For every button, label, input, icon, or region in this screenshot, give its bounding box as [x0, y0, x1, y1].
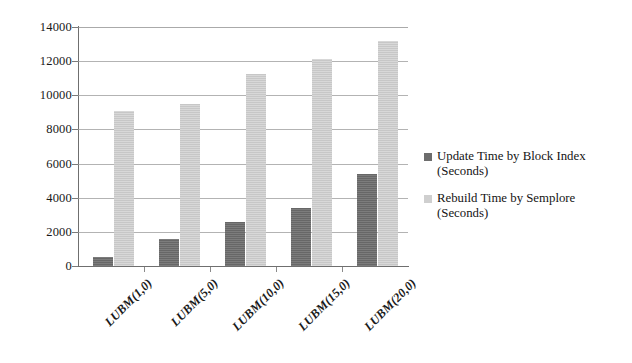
legend-label-rebuild-line1: Rebuild Time by Semplore — [437, 191, 575, 205]
y-axis-tick-mark — [72, 27, 78, 28]
x-axis-tick-label: LUBM(15,0) — [295, 276, 353, 334]
chart-legend: Update Time by Block Index (Seconds) Reb… — [424, 149, 624, 233]
x-axis-tick-mark — [210, 267, 211, 272]
legend-label-update-line2: (Seconds) — [437, 164, 586, 179]
legend-item-rebuild-time[interactable]: Rebuild Time by Semplore (Seconds) — [424, 191, 624, 221]
legend-label-update-line1: Update Time by Block Index — [437, 149, 586, 163]
x-axis-tick-label: LUBM(10,0) — [229, 276, 287, 334]
y-axis-tick-mark — [72, 266, 78, 267]
x-axis-tick-mark — [342, 267, 343, 272]
chart-figure: 02000400060008000100001200014000 LUBM(1,… — [0, 0, 632, 363]
x-axis-tick-label: LUBM(1,0) — [102, 276, 156, 330]
legend-swatch-icon-rebuild — [424, 195, 432, 203]
y-axis-tick-mark — [72, 198, 78, 199]
y-axis-tick-mark — [72, 129, 78, 130]
x-axis-tick-mark — [144, 267, 145, 272]
y-axis-tick-mark — [72, 164, 78, 165]
y-axis-tick-mark — [72, 61, 78, 62]
legend-label-rebuild-line2: (Seconds) — [437, 206, 575, 221]
y-axis-tick-mark — [72, 232, 78, 233]
y-axis-tick-mark — [72, 95, 78, 96]
legend-label-rebuild: Rebuild Time by Semplore (Seconds) — [437, 191, 575, 221]
x-axis-tick-mark — [276, 267, 277, 272]
x-axis-tick-label: LUBM(5,0) — [168, 276, 222, 330]
x-axis-tick-label: LUBM(20,0) — [361, 276, 419, 334]
legend-item-update-time[interactable]: Update Time by Block Index (Seconds) — [424, 149, 624, 179]
legend-label-update: Update Time by Block Index (Seconds) — [437, 149, 586, 179]
legend-swatch-icon-update — [424, 153, 432, 161]
